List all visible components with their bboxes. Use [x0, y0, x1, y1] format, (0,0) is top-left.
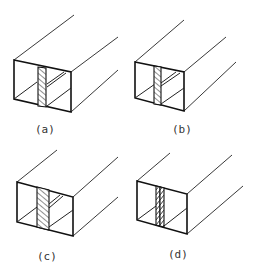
diagram-canvas: (a) (b) (c): [0, 0, 256, 275]
edge-top-right: [73, 157, 118, 197]
weld-bead-right-hatch: [160, 187, 164, 227]
weld-hatch: [38, 67, 46, 107]
weld-bead-left-hatch: [156, 186, 160, 226]
inner-floor-left: [17, 207, 37, 222]
partition-edge-2: [47, 72, 64, 84]
inner-floor-right: [47, 88, 71, 106]
panel-c: (c): [17, 150, 118, 263]
panel-label-d: (d): [168, 248, 188, 261]
panel-label-b: (b): [172, 123, 192, 136]
weld-hatch: [37, 187, 49, 230]
edge-bottom-right: [71, 70, 118, 112]
edge-top-right: [184, 37, 226, 72]
panel-b: (b): [135, 20, 236, 136]
edge-top-left: [135, 20, 184, 62]
panel-label-a: (a): [35, 123, 55, 136]
panel-d: (d): [137, 153, 243, 261]
edge-top-left: [137, 153, 170, 181]
panel-a: (a): [14, 15, 118, 136]
edge-bottom-right: [187, 186, 243, 234]
inner-floor-right: [49, 210, 73, 227]
edge-bottom-right: [184, 62, 236, 111]
inner-floor-left: [137, 206, 156, 220]
edge-top-right: [187, 155, 232, 194]
partition-edge: [47, 73, 66, 87]
inner-floor-left: [14, 82, 37, 99]
edge-top-right: [71, 37, 118, 72]
edge-bottom-right: [73, 197, 118, 236]
inner-floor-left: [135, 84, 155, 98]
partition-edge: [161, 73, 180, 86]
panel-label-c: (c): [37, 250, 57, 263]
inner-floor-right: [164, 208, 187, 226]
weld-hatch: [154, 66, 161, 105]
edge-top-left: [14, 15, 74, 60]
inner-floor-right: [161, 88, 184, 104]
edge-top-left: [17, 150, 57, 182]
